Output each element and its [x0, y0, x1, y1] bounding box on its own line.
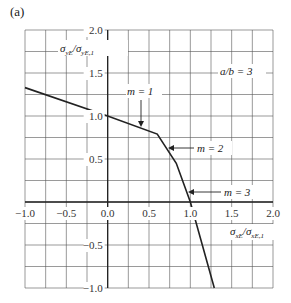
x-tick-label: 1.5 — [225, 207, 239, 219]
aspect-ratio-annotation: a/b = 3 — [218, 64, 266, 78]
y-axis-label: σyE/σyE,1 — [58, 40, 128, 57]
x-tick-labels: −1.0−0.50.00.51.01.52.0 — [14, 207, 284, 220]
y-tick-label: 2.0 — [89, 24, 103, 36]
interaction-curve — [25, 88, 214, 288]
arrow-icon — [188, 189, 194, 195]
y-tick-label: −1.0 — [83, 282, 103, 294]
x-tick-label: 1.0 — [183, 207, 197, 219]
svg-text:a/b = 3: a/b = 3 — [220, 65, 253, 77]
m2-annotation: m = 2 — [168, 141, 232, 155]
interaction-chart: −1.0−0.50.00.51.01.52.0 2.01.51.00.5−0.5… — [0, 0, 291, 303]
m1-annotation: m = 1 — [126, 84, 162, 127]
arrow-icon — [138, 121, 144, 127]
y-tick-labels: 2.01.51.00.5−0.5−1.0 — [83, 24, 105, 295]
arrow-icon — [168, 145, 174, 151]
svg-text:m = 3: m = 3 — [224, 186, 251, 198]
x-tick-label: 2.0 — [266, 207, 280, 219]
y-tick-label: 1.0 — [89, 110, 103, 122]
panel-label: (a) — [10, 4, 24, 19]
y-tick-label: −0.5 — [83, 239, 103, 251]
x-tick-label: 0.0 — [101, 207, 115, 219]
x-tick-label: 0.5 — [142, 207, 156, 219]
y-tick-label: 1.5 — [89, 67, 103, 79]
svg-text:m = 1: m = 1 — [127, 85, 153, 97]
x-tick-label: −1.0 — [15, 207, 35, 219]
svg-text:m = 2: m = 2 — [197, 142, 224, 154]
x-tick-label: −0.5 — [56, 207, 76, 219]
m3-annotation: m = 3 — [188, 185, 259, 199]
x-axis-label: σxE/σxE,1 — [228, 224, 290, 240]
y-tick-label: 0.5 — [89, 153, 103, 165]
